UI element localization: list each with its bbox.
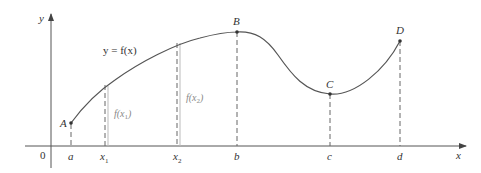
point-a-label: A: [59, 117, 67, 129]
y-axis-label: y: [38, 12, 44, 24]
fx1-label: f(x1): [114, 108, 132, 121]
point-a-marker: [69, 121, 73, 125]
point-d-marker: [398, 39, 402, 43]
x-axis-label: x: [455, 149, 461, 161]
tick-b-label: b: [234, 150, 240, 162]
tick-c-label: c: [327, 150, 332, 162]
curve-label: y = f(x): [103, 44, 137, 57]
tick-x1-label: x1: [99, 150, 109, 165]
tick-x2-label: x2: [172, 150, 182, 165]
origin-label: 0: [40, 149, 46, 161]
function-graph-diagram: y x 0 y = f(x) A B C D a b c d x1 x2 f(x…: [0, 0, 481, 173]
tick-a-label: a: [68, 150, 74, 162]
fx2-label: f(x2): [186, 92, 204, 105]
point-c-marker: [328, 92, 332, 96]
tick-d-label: d: [397, 150, 403, 162]
point-b-marker: [235, 30, 239, 34]
point-d-label: D: [395, 24, 404, 36]
point-c-label: C: [326, 78, 334, 90]
graph-canvas: y x 0 y = f(x) A B C D a b c d x1 x2 f(x…: [0, 0, 481, 173]
point-b-label: B: [233, 15, 240, 27]
